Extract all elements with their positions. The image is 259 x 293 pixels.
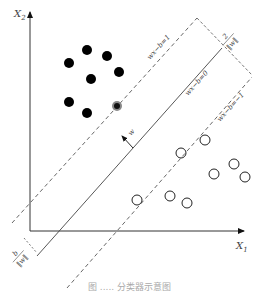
support-vector-negative — [132, 195, 142, 205]
offset-indicator — [24, 238, 37, 253]
data-point — [114, 67, 124, 77]
figure-caption: 图 ..... 分类器示意图 — [0, 280, 259, 293]
support-vector-core — [114, 103, 120, 109]
data-point — [229, 159, 239, 169]
upper-margin-label: wx−b=1 — [146, 33, 172, 61]
normal-vector-arrow — [122, 136, 133, 148]
data-point — [64, 97, 74, 107]
upper-margin-line — [12, 18, 197, 223]
margin-width-label: 2 ‖w‖ — [217, 28, 241, 52]
data-point — [165, 191, 175, 201]
data-point — [102, 51, 112, 61]
data-point — [82, 45, 92, 55]
offset-label: b ‖w‖ — [7, 245, 31, 269]
x-axis-label: X1 — [235, 240, 248, 254]
normal-vector-label: w — [127, 128, 137, 138]
negative-class-points — [132, 135, 250, 208]
data-point — [200, 135, 210, 145]
svg-text:2: 2 — [220, 32, 230, 42]
data-point — [209, 169, 219, 179]
data-point — [240, 172, 250, 182]
data-point — [64, 58, 74, 68]
support-vector-negative — [176, 148, 186, 158]
svg-text:b: b — [11, 249, 20, 258]
lower-margin-label: wx−b=−1 — [216, 91, 246, 123]
hyperplane-label: wx−b=0 — [184, 69, 211, 98]
positive-class-points — [64, 45, 124, 118]
data-point — [82, 108, 92, 118]
y-axis-label: X2 — [13, 8, 26, 22]
data-point — [86, 74, 96, 84]
data-point — [182, 198, 192, 208]
